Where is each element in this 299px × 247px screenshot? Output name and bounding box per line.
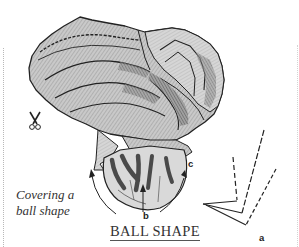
label-c: c [188, 158, 193, 169]
illustration-stage: Covering a ball shape a b c BALL SHAPE [0, 0, 299, 247]
label-b: b [143, 210, 149, 221]
figure-title: BALL SHAPE [110, 224, 200, 241]
label-a: a [259, 232, 264, 243]
fabric-ruffles [29, 17, 224, 170]
fold-angle-diagram [203, 130, 276, 225]
caption-line-1: Covering a [16, 187, 74, 203]
caption-line-2: ball shape [16, 203, 74, 219]
scissors-icon [30, 112, 41, 129]
figure-caption: Covering a ball shape [16, 187, 74, 219]
ball-shape [103, 146, 186, 210]
